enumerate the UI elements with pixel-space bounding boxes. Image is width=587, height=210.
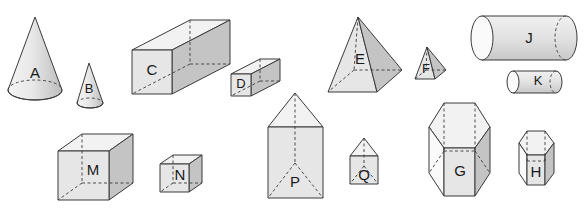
cube-n: N [160,155,202,192]
cone-b: B [77,63,103,108]
cube-m: M [58,134,133,200]
triangular-prism-q: Q [350,138,378,184]
label-e: E [355,50,365,67]
cylinder-k: K [507,71,562,93]
label-p: P [290,173,300,190]
label-n: N [175,166,186,183]
label-c: C [147,61,158,78]
square-prism-d: D [231,59,280,96]
label-b: B [85,81,94,96]
label-j: J [525,29,533,46]
label-h: H [531,163,542,180]
cylinder-j: J [471,16,577,60]
label-g: G [454,162,466,179]
square-pyramid-f: F [415,47,446,79]
square-pyramid-e: E [328,17,402,92]
hexagonal-prism-h: H [519,131,554,185]
label-q: Q [358,166,370,183]
hexagonal-prism-g: G [429,103,490,196]
label-d: D [236,76,245,91]
solids-figure: A B C D E [0,0,587,210]
triangular-prism-p: P [268,93,323,198]
cone-a: A [8,17,62,100]
label-f: F [422,61,430,76]
label-a: A [30,64,40,81]
label-k: K [534,73,543,88]
label-m: M [87,161,100,178]
square-prism-c: C [132,20,230,94]
